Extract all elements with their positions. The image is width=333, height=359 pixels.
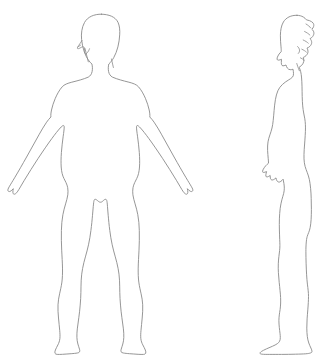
front-body-contour <box>8 14 193 354</box>
side-view-body <box>260 15 314 354</box>
body-outline-illustration <box>0 0 333 359</box>
side-body-contour <box>260 15 314 354</box>
front-view-body <box>8 14 193 354</box>
body-figure-canvas <box>0 0 333 359</box>
